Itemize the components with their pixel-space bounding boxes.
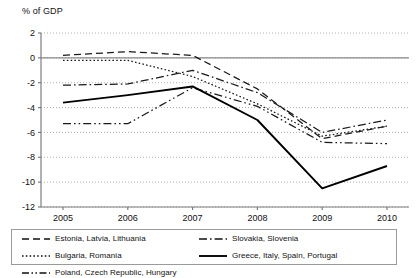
- x-tick-label: 2007: [183, 213, 203, 223]
- legend-row: Estonia, Latvia, LithuaniaSlovakia, Slov…: [12, 230, 396, 247]
- y-tick-label: 0: [30, 53, 35, 63]
- legend-item[interactable]: Estonia, Latvia, Lithuania: [12, 234, 194, 244]
- legend-label: Poland, Czech Republic, Hungary: [55, 268, 177, 277]
- series-line-4: [63, 86, 387, 188]
- y-tick-label: -2: [27, 78, 35, 88]
- x-tick-label: 2010: [377, 213, 397, 223]
- legend-label: Slovakia, Slovenia: [232, 234, 298, 243]
- legend-label: Greece, Italy, Spain, Portugal: [232, 251, 337, 260]
- y-tick-label: -6: [27, 128, 35, 138]
- legend-item[interactable]: Bulgaria, Romania: [12, 251, 194, 261]
- legend-swatch-dotted-icon: [21, 251, 51, 261]
- chart-legend: Estonia, Latvia, LithuaniaSlovakia, Slov…: [11, 229, 397, 265]
- x-tick-label: 2006: [118, 213, 138, 223]
- legend-swatch-solid-icon: [198, 251, 228, 261]
- legend-swatch-dash-dot-icon: [198, 234, 228, 244]
- legend-label: Bulgaria, Romania: [55, 251, 122, 260]
- series-line-0: [63, 52, 387, 139]
- y-tick-labels: 20-2-4-6-8-10-12: [22, 28, 35, 212]
- y-axis: [38, 33, 41, 207]
- y-tick-label: -8: [27, 152, 35, 162]
- legend-item[interactable]: Slovakia, Slovenia: [194, 234, 396, 244]
- legend-row: Bulgaria, RomaniaGreece, Italy, Spain, P…: [12, 247, 396, 264]
- legend-row: Poland, Czech Republic, Hungary: [12, 264, 396, 278]
- x-tick-label: 2009: [312, 213, 332, 223]
- y-tick-label: 2: [30, 28, 35, 38]
- x-tick-label: 2005: [53, 213, 73, 223]
- legend-item[interactable]: Poland, Czech Republic, Hungary: [12, 268, 194, 278]
- series-line-1: [63, 70, 387, 132]
- grid-lines: [41, 33, 409, 207]
- y-tick-label: -12: [22, 202, 35, 212]
- chart-figure: % of GDP 20-2-4-6-8-10-12 20052006200720…: [0, 0, 418, 278]
- data-series-group: [63, 52, 387, 189]
- legend-swatch-dash-dot-dot-icon: [21, 268, 51, 278]
- legend-item[interactable]: Greece, Italy, Spain, Portugal: [194, 251, 396, 261]
- x-tick-label: 2008: [247, 213, 267, 223]
- legend-swatch-dashed-icon: [21, 234, 51, 244]
- legend-label: Estonia, Latvia, Lithuania: [55, 234, 146, 243]
- x-axis: [41, 207, 409, 210]
- y-tick-label: -4: [27, 103, 35, 113]
- x-tick-labels: 200520062007200820092010: [53, 213, 397, 223]
- y-tick-label: -10: [22, 177, 35, 187]
